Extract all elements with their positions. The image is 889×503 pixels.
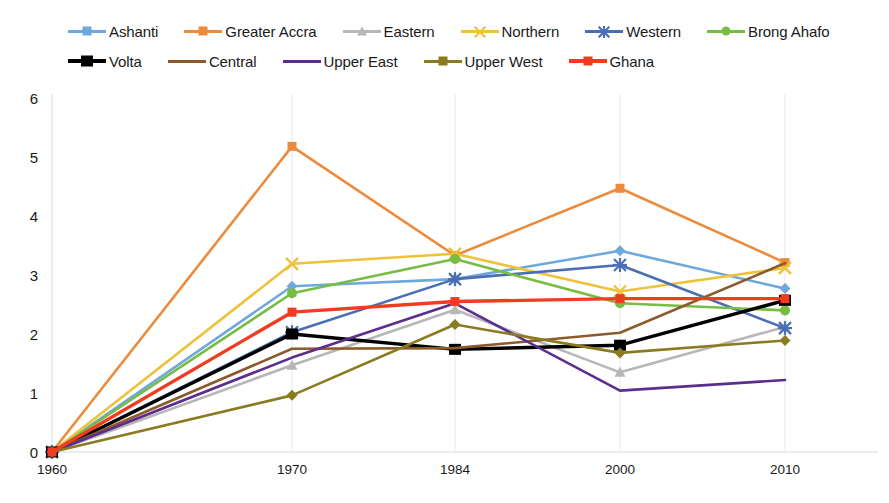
- x-axis-tick-label: 1984: [440, 462, 470, 477]
- line-chart: AshantiGreater AccraEasternNorthernWeste…: [0, 0, 889, 503]
- y-axis-tick-label: 1: [8, 385, 38, 402]
- series-ghana: [48, 294, 790, 456]
- series-western: [45, 258, 792, 459]
- y-axis-tick-label: 3: [8, 267, 38, 284]
- y-axis-tick-label: 4: [8, 208, 38, 225]
- y-axis-tick-label: 2: [8, 326, 38, 343]
- plot-area: 012345619601970198420002010: [0, 0, 889, 503]
- x-axis-tick-label: 2010: [770, 462, 800, 477]
- y-axis-tick-label: 6: [8, 90, 38, 107]
- x-axis-tick-label: 2000: [605, 462, 635, 477]
- y-axis-tick-label: 5: [8, 149, 38, 166]
- series-layer: [0, 0, 889, 503]
- x-axis-tick-label: 1970: [277, 462, 307, 477]
- x-axis-tick-label: 1960: [37, 462, 67, 477]
- series-upper-east: [52, 303, 785, 452]
- y-axis-tick-label: 0: [8, 444, 38, 461]
